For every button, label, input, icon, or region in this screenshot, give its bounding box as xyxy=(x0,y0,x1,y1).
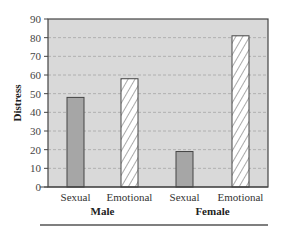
bar-male-sexual xyxy=(67,97,84,187)
y-tick-label: 10 xyxy=(30,162,42,174)
y-tick-label: 0 xyxy=(36,181,42,193)
y-tick-label: 20 xyxy=(30,144,42,156)
y-tick-label: 30 xyxy=(30,125,42,137)
bar-chart: 0102030405060708090 SexualEmotionalSexua… xyxy=(0,0,283,228)
y-tick-label: 60 xyxy=(30,69,42,81)
x-category-label: Sexual xyxy=(61,191,91,203)
y-tick-label: 80 xyxy=(30,32,42,44)
y-axis-title: Distress xyxy=(11,84,23,122)
x-axis-labels: SexualEmotionalSexualEmotionalMaleFemale xyxy=(61,191,264,217)
y-tick-label: 40 xyxy=(30,106,42,118)
y-tick-label: 90 xyxy=(30,13,42,25)
y-tick-label: 70 xyxy=(30,50,42,62)
y-tick-label: 50 xyxy=(30,88,42,100)
x-category-label: Emotional xyxy=(107,191,153,203)
bar-male-emotional xyxy=(121,79,138,187)
x-group-label: Female xyxy=(195,205,229,217)
x-category-label: Sexual xyxy=(170,191,200,203)
y-axis-ticks: 0102030405060708090 xyxy=(30,13,48,193)
bar-female-emotional xyxy=(232,36,249,187)
bar-female-sexual xyxy=(176,152,193,187)
x-group-label: Male xyxy=(91,205,115,217)
x-category-label: Emotional xyxy=(218,191,264,203)
